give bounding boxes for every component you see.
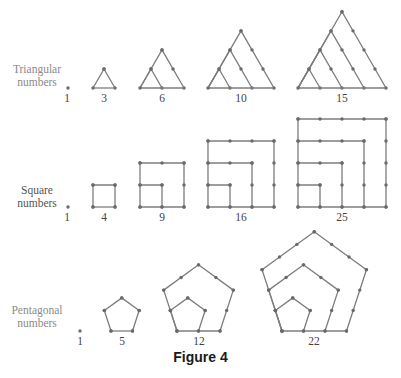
dot	[318, 139, 321, 142]
edge	[140, 69, 162, 88]
dot	[138, 161, 141, 164]
square-value-4: 4	[101, 211, 107, 223]
dot	[206, 86, 209, 89]
dot	[340, 117, 343, 120]
dot	[197, 263, 200, 266]
square-label-line1: Square	[8, 184, 66, 197]
dot	[113, 183, 116, 186]
dot	[160, 48, 163, 51]
dot	[91, 86, 94, 89]
dot	[272, 205, 275, 208]
edge	[93, 69, 115, 88]
pentagonal-value-1: 1	[77, 335, 83, 347]
triangular-numbers-label: Triangular numbers	[8, 63, 66, 88]
edge	[164, 265, 234, 331]
dot	[160, 183, 163, 186]
dot	[318, 205, 321, 208]
triangular-figures	[66, 10, 387, 90]
dot	[308, 309, 311, 312]
pentagonal-value-22: 22	[308, 335, 320, 347]
dot	[340, 183, 343, 186]
dot	[225, 309, 228, 312]
dot	[274, 309, 277, 312]
dot	[373, 67, 376, 70]
triangular-value-10: 10	[235, 92, 247, 104]
dot	[162, 288, 165, 291]
dot	[318, 117, 321, 120]
dot	[323, 329, 326, 332]
dot	[318, 183, 321, 186]
dot	[362, 161, 365, 164]
dot	[217, 67, 220, 70]
dot	[66, 205, 69, 208]
dot	[365, 268, 368, 271]
dot	[329, 29, 332, 32]
dot	[206, 183, 209, 186]
triangular-figure-10	[206, 29, 275, 90]
dot	[384, 183, 387, 186]
square-figure-9	[138, 161, 185, 208]
edge	[208, 31, 274, 88]
square-value-9: 9	[159, 211, 165, 223]
dot	[228, 161, 231, 164]
dot	[228, 48, 231, 51]
dot	[138, 183, 141, 186]
dot	[206, 205, 209, 208]
dot	[138, 86, 141, 89]
dot	[347, 255, 350, 258]
dot	[362, 205, 365, 208]
dot	[272, 183, 275, 186]
dot	[296, 86, 299, 89]
edge	[208, 185, 230, 207]
dot	[66, 86, 69, 89]
dot	[120, 296, 123, 299]
dot	[169, 309, 172, 312]
dot	[272, 161, 275, 164]
square-figure-1	[66, 205, 69, 208]
triangular-value-6: 6	[159, 92, 165, 104]
triangular-figure-15	[296, 10, 387, 90]
dot	[384, 117, 387, 120]
dot	[78, 329, 81, 332]
dot	[109, 329, 112, 332]
dot	[239, 67, 242, 70]
dot	[280, 329, 283, 332]
dot	[232, 288, 235, 291]
dot	[182, 161, 185, 164]
dot	[179, 276, 182, 279]
dot	[358, 288, 361, 291]
square-figures	[66, 117, 387, 208]
dot	[345, 329, 348, 332]
dot	[340, 161, 343, 164]
triangular-label-line1: Triangular	[8, 63, 66, 76]
square-value-16: 16	[235, 211, 247, 223]
dot	[313, 230, 316, 233]
square-figure-4	[91, 183, 116, 208]
dot	[160, 161, 163, 164]
edge	[298, 141, 364, 207]
dot	[91, 183, 94, 186]
dot	[318, 161, 321, 164]
pentagonal-numbers-label: Pentagonal numbers	[6, 304, 68, 329]
dot	[330, 309, 333, 312]
dot	[384, 139, 387, 142]
dot	[228, 139, 231, 142]
square-label-line2: numbers	[8, 197, 66, 210]
dot	[362, 183, 365, 186]
dot	[228, 205, 231, 208]
dot	[250, 161, 253, 164]
dot	[197, 329, 200, 332]
pentagonal-value-5: 5	[119, 335, 125, 347]
square-figure-16	[206, 139, 275, 208]
dot	[351, 309, 354, 312]
dot	[272, 139, 275, 142]
triangular-value-3: 3	[101, 92, 107, 104]
dot	[171, 67, 174, 70]
edge	[298, 185, 320, 207]
dot	[340, 48, 343, 51]
dot	[329, 67, 332, 70]
dot	[362, 139, 365, 142]
dot	[182, 205, 185, 208]
edge	[262, 232, 366, 331]
dot	[307, 67, 310, 70]
